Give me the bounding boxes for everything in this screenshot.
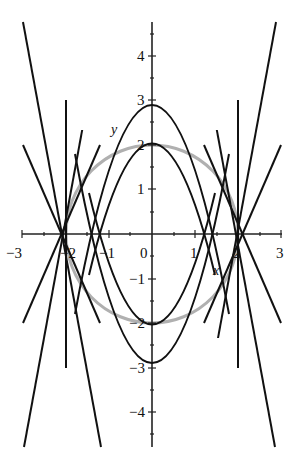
chart-plot: −3 −2 −1 0 1 2 3 4 3 2 1 −1 −2 −3 −4 y x bbox=[0, 0, 299, 468]
y-tick-label: −4 bbox=[129, 404, 145, 420]
y-tick-label: 2 bbox=[137, 137, 145, 153]
x-tick-label: 0 bbox=[140, 245, 148, 261]
x-tick-label: 2 bbox=[233, 245, 241, 261]
y-tick-label: 3 bbox=[137, 92, 145, 108]
x-axis-label: x bbox=[212, 263, 220, 278]
y-axis-label: y bbox=[109, 122, 118, 137]
y-tick-label: −1 bbox=[129, 271, 145, 287]
y-tick-label: 4 bbox=[137, 48, 145, 64]
x-tick-label: 1 bbox=[190, 245, 198, 261]
x-tick-label: 3 bbox=[276, 245, 284, 261]
x-tick-label: −3 bbox=[6, 245, 22, 261]
y-tick-label: 1 bbox=[137, 181, 145, 197]
x-tick-label: −2 bbox=[60, 245, 76, 261]
x-tick-label: −1 bbox=[99, 245, 115, 261]
y-tick-label: −2 bbox=[129, 315, 145, 331]
y-tick-label: −3 bbox=[129, 360, 145, 376]
